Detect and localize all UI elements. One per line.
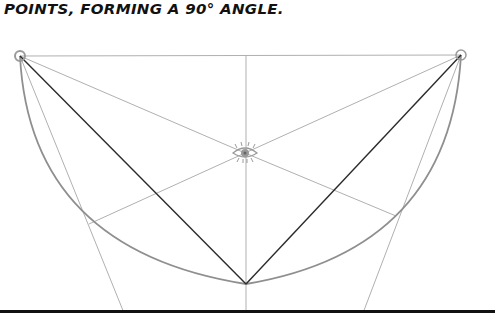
eye-icon: [233, 142, 257, 163]
right-fan-line: [363, 55, 461, 313]
angle-right-line: [246, 55, 461, 284]
horizon-line: [20, 55, 461, 56]
eye-to-right-arc-line: [245, 153, 396, 216]
angle-left-line: [20, 56, 246, 284]
circle-arc: [20, 55, 461, 284]
right-to-eye-line: [245, 55, 461, 153]
perspective-diagram: [0, 0, 495, 313]
eye-to-left-arc-line: [89, 153, 245, 224]
